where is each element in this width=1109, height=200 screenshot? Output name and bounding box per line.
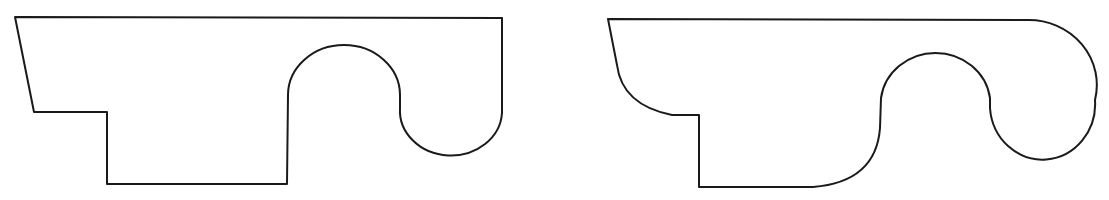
rounded-corner-profile <box>608 19 1097 187</box>
profile-diagram <box>0 0 1109 200</box>
sharp-corner-profile <box>15 17 502 184</box>
